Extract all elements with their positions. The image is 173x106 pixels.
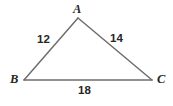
vertex-label-a: A: [73, 3, 81, 16]
triangle-edge-ab: [24, 18, 78, 80]
triangle-edge-ac: [78, 18, 152, 80]
side-length-label-bc: 18: [78, 85, 91, 97]
side-length-label-ab: 12: [37, 34, 50, 46]
vertex-label-c: C: [157, 73, 165, 86]
triangle-figure: A B C 12 14 18: [0, 0, 173, 106]
vertex-label-b: B: [10, 73, 18, 86]
side-length-label-ac: 14: [110, 33, 123, 45]
